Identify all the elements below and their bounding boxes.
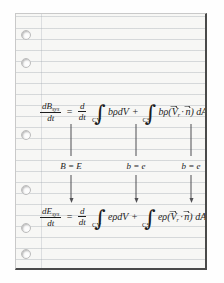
velocity-symbol-bottom: V xyxy=(171,211,177,222)
plus-sign-top: + xyxy=(132,107,138,117)
lhs-numerator-bottom: dEsys xyxy=(40,207,61,218)
equation-bottom: dEsys dt = d dt ∫ CV eρdV + ∫ CS eρ xyxy=(38,207,206,228)
surface-integrand-bottom: eρ(Vr·n) dA xyxy=(158,212,206,223)
normal-symbol-bottom: n xyxy=(184,211,189,222)
arrow-B-to-E-lower xyxy=(71,175,72,199)
arrow-b-to-e-surface-upper xyxy=(191,124,192,156)
lhs-numerator-text-bottom: dE xyxy=(42,206,52,216)
lhs-denominator-bottom: dt xyxy=(40,218,61,228)
surface-integral-bottom: ∫ CS xyxy=(141,211,155,224)
equation-content: dBsys dt = d dt ∫ CV bρdV + ∫ CS bρ xyxy=(16,14,205,268)
lhs-numerator-subscript-bottom: sys xyxy=(52,211,59,217)
lhs-numerator-text-top: dB xyxy=(42,101,52,111)
surface-integrand-prefix-bottom: eρ( xyxy=(158,211,171,222)
notebook-sheet: dBsys dt = d dt ∫ CV bρdV + ∫ CS bρ xyxy=(15,13,207,270)
substitution-B-equals-E: B = E xyxy=(60,161,82,171)
integral-limit-cv-top: CV xyxy=(92,117,101,124)
operator-numerator-bottom: d xyxy=(78,207,87,217)
volume-integrand-bottom: eρdV xyxy=(108,212,128,222)
equals-sign-top: = xyxy=(67,107,73,117)
velocity-vector-top: V xyxy=(172,107,178,117)
velocity-symbol-top: V xyxy=(172,106,178,117)
integral-limit-cs-bottom: CS xyxy=(142,222,150,229)
lhs-denominator-top: dt xyxy=(40,113,61,123)
normal-vector-bottom: n xyxy=(184,212,189,222)
velocity-subscript-top: r xyxy=(178,112,180,118)
volume-integrand-top: bρdV xyxy=(108,107,129,117)
integral-limit-cs-top: CS xyxy=(143,117,151,124)
arrow-b-to-e-volume-lower xyxy=(136,175,137,199)
normal-symbol-top: n xyxy=(185,106,190,117)
dot-product-top: · xyxy=(181,106,184,117)
dot-product-bottom: · xyxy=(180,211,183,222)
velocity-vector-bottom: V xyxy=(171,212,177,222)
page-root: dBsys dt = d dt ∫ CV bρdV + ∫ CS bρ xyxy=(0,0,224,283)
arrow-b-to-e-volume-upper xyxy=(136,124,137,156)
equation-top: dBsys dt = d dt ∫ CV bρdV + ∫ CS bρ xyxy=(38,102,207,123)
operator-denominator-top: dt xyxy=(78,112,87,122)
normal-vector-top: n xyxy=(185,107,190,117)
equals-sign-bottom: = xyxy=(67,212,73,222)
arrow-b-to-e-surface-lower xyxy=(191,175,192,199)
arrow-B-to-E-upper xyxy=(71,124,72,156)
surface-integrand-suffix-top: ) dA xyxy=(190,106,207,117)
lhs-fraction-bottom: dEsys dt xyxy=(40,207,61,228)
surface-integrand-top: bρ(Vr·n) dA xyxy=(158,107,207,118)
operator-numerator-top: d xyxy=(78,102,87,112)
lhs-fraction-top: dBsys dt xyxy=(40,102,61,123)
operator-fraction-top: d dt xyxy=(78,102,87,122)
substitution-b-equals-e-volume: b = e xyxy=(126,161,145,171)
volume-integral-top: ∫ CV xyxy=(91,106,105,119)
lhs-numerator-subscript-top: sys xyxy=(52,106,59,112)
lhs-numerator-top: dBsys xyxy=(40,102,61,113)
substitution-b-equals-e-surface: b = e xyxy=(181,161,200,171)
operator-denominator-bottom: dt xyxy=(78,217,87,227)
surface-integral-top: ∫ CS xyxy=(142,106,156,119)
integral-limit-cv-bottom: CV xyxy=(92,222,101,229)
surface-integrand-prefix-top: bρ( xyxy=(158,106,171,117)
surface-integrand-suffix-bottom: ) dA xyxy=(189,211,206,222)
volume-integral-bottom: ∫ CV xyxy=(91,211,105,224)
operator-fraction-bottom: d dt xyxy=(78,207,87,227)
plus-sign-bottom: + xyxy=(132,212,138,222)
